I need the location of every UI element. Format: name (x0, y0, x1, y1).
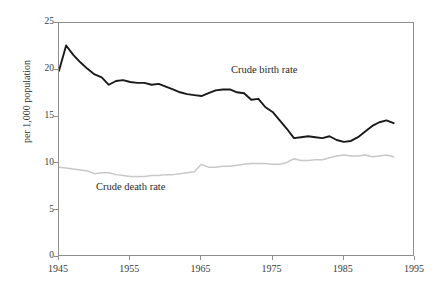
y-tick-label-20: 20 (32, 64, 54, 74)
y-tick-label-15: 15 (32, 111, 54, 121)
birth-rate-line (59, 45, 394, 141)
x-tick-label-1965: 1965 (180, 264, 220, 274)
x-tick-label-1985: 1985 (323, 264, 363, 274)
death-rate-annotation: Crude death rate (96, 182, 165, 193)
x-tick-label-1995: 1995 (394, 264, 434, 274)
y-axis-title: per 1,000 population (21, 32, 32, 172)
x-tick-label-1955: 1955 (109, 264, 149, 274)
y-tick-label-5: 5 (32, 205, 54, 215)
x-tick-label-1975: 1975 (252, 264, 292, 274)
series-canvas (59, 23, 415, 257)
death-rate-line (59, 155, 394, 177)
y-tick-label-0: 0 (32, 251, 54, 261)
plot-area (58, 22, 414, 256)
birth-rate-annotation: Crude birth rate (231, 65, 297, 76)
y-tick-label-10: 10 (32, 158, 54, 168)
y-tick-label-25: 25 (32, 17, 54, 27)
line-chart: per 1,000 population 25 20 15 10 5 0 194… (0, 0, 447, 293)
x-tick-label-1945: 1945 (38, 264, 78, 274)
